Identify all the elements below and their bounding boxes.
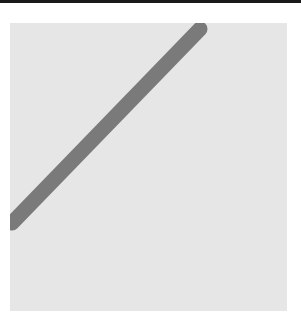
gray-canvas [10,23,287,311]
diagonal-stroke [12,29,200,223]
top-border [0,0,301,3]
diagonal-line-graphic [10,23,287,311]
